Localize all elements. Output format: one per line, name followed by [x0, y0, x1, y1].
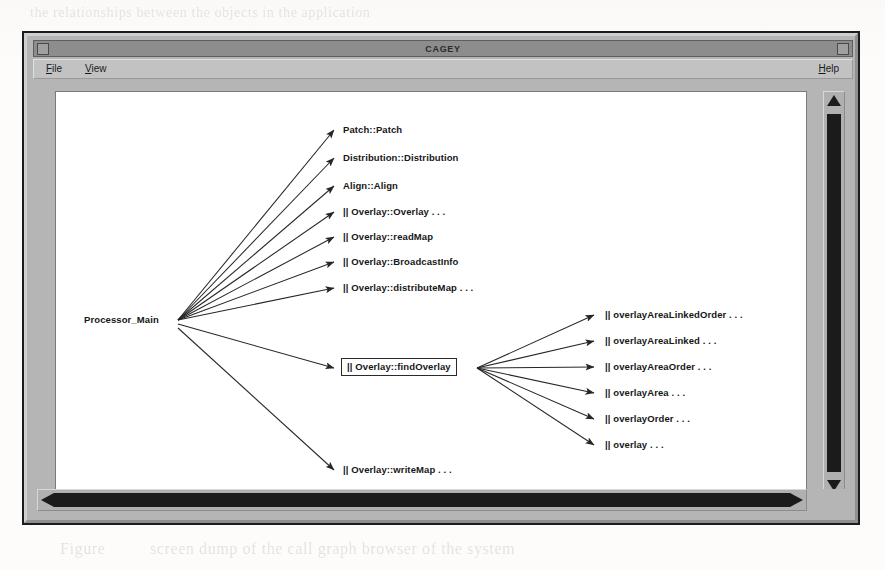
ghost-line-caption2: screen dump of the call graph browser of…	[150, 540, 515, 558]
menu-view-rest: iew	[92, 63, 107, 74]
ghost-line-caption: Figure	[60, 540, 105, 558]
graph-node-align-align[interactable]: Align::Align	[343, 180, 398, 191]
graph-node-overlayarea[interactable]: || overlayArea . . .	[605, 387, 685, 398]
horizontal-scroll-thumb[interactable]	[54, 493, 790, 507]
graph-node-overlay-distributemap[interactable]: || Overlay::distributeMap . . .	[343, 282, 473, 293]
menu-help-mnemonic: H	[818, 63, 825, 74]
graph-node-root[interactable]: Processor_Main	[84, 314, 159, 325]
graph-node-overlay-broadcastinfo[interactable]: || Overlay::BroadcastInfo	[343, 256, 459, 267]
vertical-scrollbar[interactable]	[823, 91, 845, 495]
scrollbar-corner	[823, 489, 845, 511]
graph-node-patch-patch[interactable]: Patch::Patch	[343, 124, 402, 135]
window-title: CAGEY	[425, 44, 461, 54]
graph-node-overlayareaorder[interactable]: || overlayAreaOrder . . .	[605, 361, 712, 372]
menu-item-view[interactable]: View	[82, 63, 110, 74]
graph-node-overlayorder[interactable]: || overlayOrder . . .	[605, 413, 690, 424]
menu-file-rest: ile	[52, 63, 62, 74]
window-resize-button[interactable]	[837, 43, 849, 55]
call-graph-canvas[interactable]: Processor_Main Patch::Patch Distribution…	[55, 91, 807, 495]
menu-item-file[interactable]: File	[43, 63, 65, 74]
title-bar[interactable]: CAGEY	[33, 40, 853, 57]
menu-bar: File View Help	[33, 59, 853, 79]
graph-node-distribution-distribution[interactable]: Distribution::Distribution	[343, 152, 459, 163]
application-window: CAGEY File View Help	[22, 31, 860, 525]
graph-node-overlayarealinked[interactable]: || overlayAreaLinked . . .	[605, 335, 716, 346]
menu-item-help[interactable]: Help	[815, 63, 842, 74]
window-inner-frame: CAGEY File View Help	[24, 33, 858, 523]
ghost-line-top: the relationships between the objects in…	[30, 5, 370, 21]
vertical-scroll-thumb[interactable]	[827, 114, 841, 472]
scroll-up-arrow-icon[interactable]	[827, 95, 841, 106]
graph-node-overlay-readmap[interactable]: || Overlay::readMap	[343, 231, 433, 242]
scroll-right-arrow-icon[interactable]	[790, 493, 803, 507]
horizontal-scrollbar[interactable]	[37, 489, 807, 511]
graph-node-overlay-overlay[interactable]: || Overlay::Overlay . . .	[343, 206, 445, 217]
menu-help-rest: elp	[826, 63, 839, 74]
graph-node-overlay-findoverlay-selected[interactable]: || Overlay::findOverlay	[341, 358, 457, 376]
scroll-left-arrow-icon[interactable]	[41, 493, 54, 507]
graph-node-overlayarealinkedorder[interactable]: || overlayAreaLinkedOrder . . .	[605, 309, 743, 320]
window-menu-button[interactable]	[37, 43, 49, 55]
graph-node-overlay-writemap[interactable]: || Overlay::writeMap . . .	[343, 464, 452, 475]
graph-node-overlay[interactable]: || overlay . . .	[605, 439, 664, 450]
